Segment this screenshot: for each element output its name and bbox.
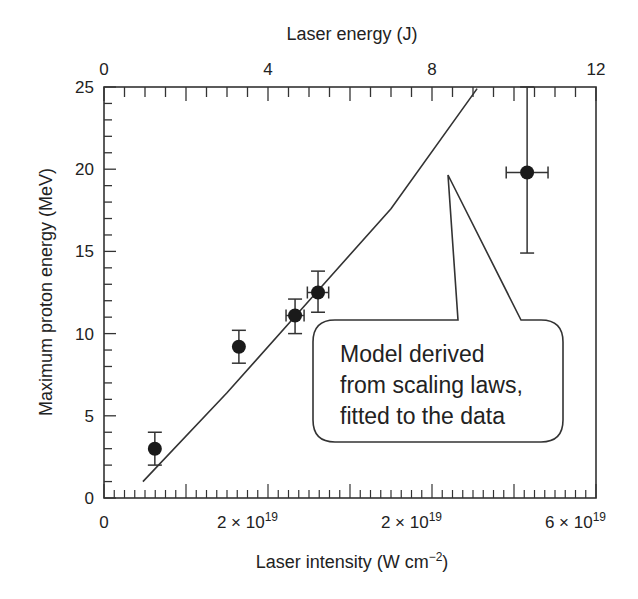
y-tick-label: 10: [75, 325, 94, 344]
data-point: [506, 87, 548, 253]
top-axis-title: Laser energy (J): [286, 24, 417, 44]
top-tick-label: 8: [427, 60, 436, 79]
annotation-callout: Model derivedfrom scaling laws,fitted to…: [313, 175, 563, 442]
bottom-tick-label: 0: [99, 513, 108, 532]
data-marker: [232, 340, 246, 354]
data-point: [232, 330, 246, 363]
callout-text-line: from scaling laws,: [340, 372, 523, 398]
top-tick-label: 4: [263, 60, 272, 79]
data-marker: [311, 286, 325, 300]
bottom-tick-label: 6 × 1019: [545, 510, 606, 532]
data-point: [307, 271, 328, 312]
bottom-tick-label: 2 × 1019: [217, 510, 278, 532]
data-point: [286, 299, 304, 334]
bottom-axis-title: Laser intensity (W cm−2): [256, 550, 449, 572]
top-tick-label: 0: [99, 60, 108, 79]
y-axis-title: Maximum proton energy (MeV): [36, 168, 56, 416]
data-marker: [148, 442, 162, 456]
y-tick-label: 5: [85, 407, 94, 426]
proton-energy-chart: 05101520250481202 × 10192 × 10196 × 1019…: [0, 0, 638, 599]
bottom-tick-label: 2 × 1019: [381, 510, 442, 532]
y-tick-label: 0: [85, 489, 94, 508]
callout-text-line: fitted to the data: [340, 403, 505, 429]
callout-box: [313, 175, 563, 442]
y-tick-label: 25: [75, 78, 94, 97]
data-point: [148, 432, 162, 465]
y-tick-label: 15: [75, 242, 94, 261]
data-marker: [288, 309, 302, 323]
data-marker: [520, 165, 534, 179]
top-tick-label: 12: [587, 60, 606, 79]
y-tick-label: 20: [75, 160, 94, 179]
callout-text-line: Model derived: [340, 341, 484, 367]
